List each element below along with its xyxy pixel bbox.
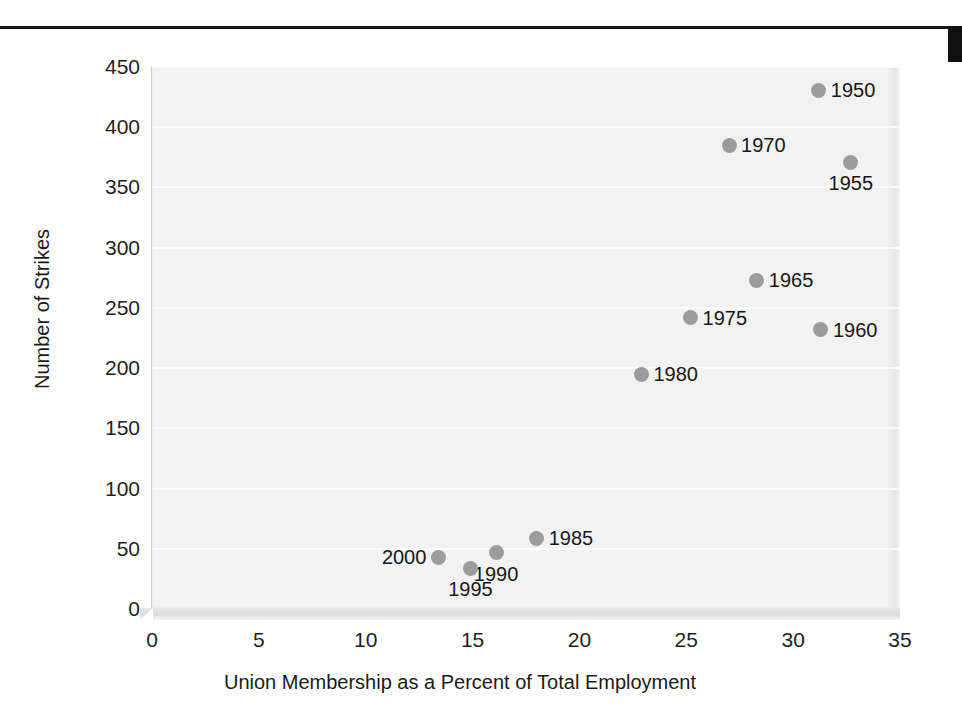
data-point[interactable]: [431, 550, 446, 565]
data-point-label: 1980: [653, 364, 698, 384]
data-point[interactable]: [529, 531, 544, 546]
data-point[interactable]: [683, 310, 698, 325]
scatter-chart-figure: 050100150200250300350400450 051015202530…: [0, 30, 962, 720]
page-top-rule: [0, 26, 948, 29]
data-point-label: 1960: [833, 320, 878, 340]
data-point[interactable]: [811, 83, 826, 98]
data-point-label: 1950: [831, 80, 876, 100]
data-point[interactable]: [489, 545, 504, 560]
data-point-label: 2000: [382, 547, 427, 567]
data-point[interactable]: [634, 367, 649, 382]
data-point-label: 1975: [703, 308, 748, 328]
data-point-label: 1970: [741, 135, 786, 155]
data-point-label: 1965: [769, 270, 814, 290]
data-points-layer: 1950195519601965197019751980198519901995…: [0, 30, 962, 720]
data-point[interactable]: [749, 273, 764, 288]
data-point[interactable]: [843, 155, 858, 170]
data-point-label: 1995: [448, 579, 493, 599]
data-point-label: 1985: [549, 528, 594, 548]
data-point[interactable]: [813, 322, 828, 337]
data-point[interactable]: [463, 561, 478, 576]
data-point[interactable]: [722, 138, 737, 153]
data-point-label: 1955: [829, 173, 874, 193]
